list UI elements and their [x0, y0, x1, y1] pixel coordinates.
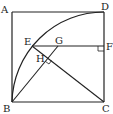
arc-bd [12, 12, 104, 102]
label-e: E [24, 36, 31, 47]
label-d: D [101, 1, 109, 12]
label-b: B [3, 103, 10, 114]
right-angle-mark-f [98, 46, 104, 51]
label-a: A [0, 4, 9, 15]
label-c: C [102, 103, 110, 114]
geometry-figure: A D B C E G F H [0, 0, 113, 114]
segment-bg [12, 46, 58, 102]
label-h: H [36, 53, 45, 64]
label-f: F [106, 41, 113, 52]
label-g: G [55, 35, 63, 46]
